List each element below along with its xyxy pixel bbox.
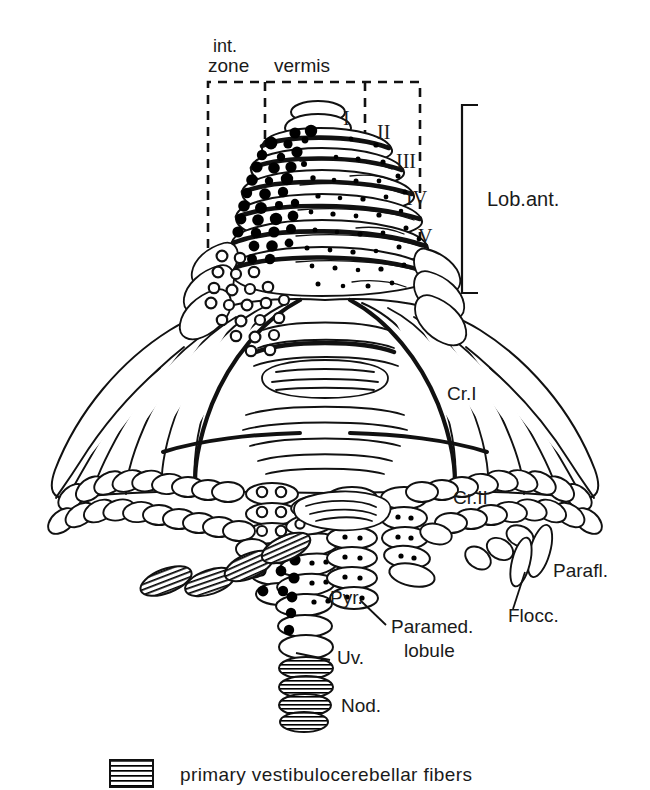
striped-swatch-icon <box>110 760 153 787</box>
label-paraflocculus: Parafl. <box>553 560 608 581</box>
label-pyramis: Pyr. <box>330 587 363 608</box>
int-zone-label-line2: zone <box>208 55 249 76</box>
label-nodulus: Nod. <box>341 695 381 716</box>
figure-canvas: int. zone vermis Lob.ant. <box>0 0 650 790</box>
legend-text: primary vestibulocerebellar fibers <box>180 764 472 785</box>
numeral-V: V <box>418 225 433 247</box>
lobus-anterior-label: Lob.ant. <box>487 188 559 210</box>
label-uvula: Uv. <box>337 647 364 668</box>
int-zone-label-line1: int. <box>213 36 237 56</box>
numeral-III: III <box>396 150 416 172</box>
label-crus-2: Cr.II <box>453 487 488 508</box>
label-flocculus: Flocc. <box>508 605 559 626</box>
label-crus-1: Cr.I <box>447 383 477 404</box>
cerebellum-diagram: int. zone vermis Lob.ant. <box>0 0 650 790</box>
numeral-IV: IV <box>406 187 428 209</box>
numeral-I: I <box>343 107 350 129</box>
label-paramedian-line2: lobule <box>404 640 455 661</box>
vermis-label: vermis <box>274 55 330 76</box>
numeral-II: II <box>377 121 390 143</box>
label-paramedian-line1: Paramed. <box>391 616 473 637</box>
bottom-central-folia <box>294 491 390 530</box>
